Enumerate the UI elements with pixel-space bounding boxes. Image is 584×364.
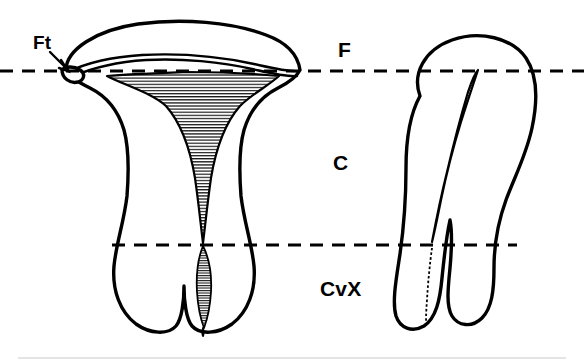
coronal-external-os: [202, 328, 204, 336]
label-fundus: F: [338, 39, 351, 60]
label-corpus: C: [333, 152, 348, 173]
sagittal-view: [394, 36, 536, 330]
sagittal-uterus-outline: [394, 36, 536, 330]
label-cervix: CvX: [320, 278, 361, 299]
label-fallopian-tube: Ft: [33, 33, 51, 52]
anatomical-figure: Ft F C CvX: [0, 0, 584, 364]
uterus-diagram-canvas: [0, 0, 584, 364]
coronal-view: [62, 21, 300, 336]
ft-leader-annotation: [50, 52, 68, 71]
